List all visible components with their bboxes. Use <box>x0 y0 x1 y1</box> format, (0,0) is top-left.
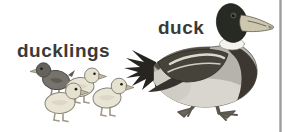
flashcard: ducklings duck <box>0 0 286 132</box>
ducklings-illustration-icon <box>28 60 136 126</box>
duck-eye <box>231 13 237 19</box>
duck-illustration-icon <box>122 2 278 130</box>
ducklings-label: ducklings <box>17 41 110 60</box>
right-edge-bar <box>279 0 282 132</box>
duck-bill <box>240 15 274 32</box>
